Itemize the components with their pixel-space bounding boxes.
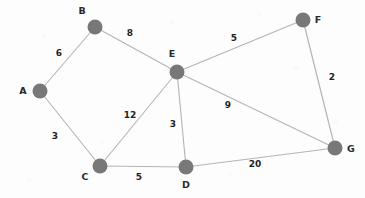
edge-weight-label: 5 <box>231 33 237 43</box>
graph-node: C <box>93 159 108 174</box>
graph-node: E <box>170 65 185 80</box>
graph-edge: B-E <box>95 27 177 72</box>
edge-weight-label: 2 <box>329 72 335 82</box>
edge-weight-label: 12 <box>124 110 137 120</box>
graph-edge: E-D <box>177 72 186 167</box>
graph-edge: A-B <box>40 27 95 91</box>
nodes-layer: ABCDEFG <box>33 13 343 175</box>
edge-weight-label: 9 <box>225 100 231 110</box>
node-label: G <box>347 143 355 154</box>
graph-edge: E-F <box>177 20 303 72</box>
node-label: E <box>169 48 176 59</box>
node-label: F <box>315 14 322 25</box>
graph-node: D <box>179 160 194 175</box>
graph-node: G <box>328 141 343 156</box>
node-label: A <box>19 85 27 96</box>
node-label: D <box>182 179 190 190</box>
node-label: B <box>78 5 85 16</box>
graph-edge: F-G <box>303 20 335 148</box>
edge-weight-label: 3 <box>52 131 58 141</box>
graph-edge: C-E <box>100 72 177 166</box>
edge-weight-label: 6 <box>56 48 62 58</box>
node-label: C <box>82 171 89 182</box>
graph-canvas: A-BB-EA-CC-EC-DE-DE-FE-GF-GD-G ABCDEFG 6… <box>0 0 365 198</box>
graph-edge: E-G <box>177 72 335 148</box>
graph-edge: A-C <box>40 91 100 166</box>
graph-node: A <box>33 84 48 99</box>
graph-node: B <box>88 20 103 35</box>
weighted-graph-diagram: A-BB-EA-CC-EC-DE-DE-FE-GF-GD-G ABCDEFG 6… <box>0 0 365 198</box>
edge-weight-label: 20 <box>249 159 262 169</box>
edges-layer: A-BB-EA-CC-EC-DE-DE-FE-GF-GD-G <box>40 20 335 167</box>
edge-weight-label: 5 <box>136 172 142 182</box>
graph-edge: C-D <box>100 166 186 167</box>
graph-node: F <box>296 13 311 28</box>
edge-weight-label: 3 <box>170 119 176 129</box>
edge-weight-label: 8 <box>127 28 133 38</box>
